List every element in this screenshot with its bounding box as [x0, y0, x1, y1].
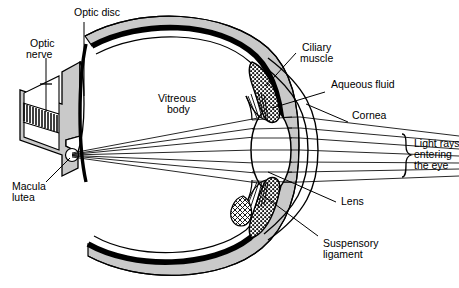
label-suspensory-ligament-line2: ligament: [323, 249, 363, 261]
brace-shape: [402, 134, 411, 177]
label-ciliary-muscle-line2: muscle: [300, 53, 333, 65]
label-light-rays-line3: the eye: [414, 160, 448, 172]
light-rays-brace: [402, 134, 411, 177]
eye-diagram-svg: [0, 0, 459, 288]
label-aqueous-fluid: Aqueous fluid: [331, 79, 395, 91]
label-optic-disc: Optic disc: [74, 7, 120, 19]
label-optic-nerve-line2: nerve: [26, 49, 52, 61]
label-macula-lutea-line2: lutea: [12, 192, 35, 204]
eye-anatomy-diagram: Optic disc Optic nerve Vitreous body Cil…: [0, 0, 459, 288]
label-lens: Lens: [341, 196, 364, 208]
label-cornea: Cornea: [352, 110, 386, 122]
label-vitreous-body-line2: body: [167, 104, 190, 116]
